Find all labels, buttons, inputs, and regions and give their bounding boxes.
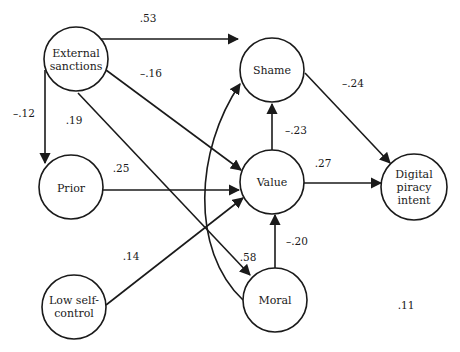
label-prior: Prior (39, 182, 103, 195)
coef-external-prior: –.12 (13, 107, 35, 119)
coef-shame-intent: –.24 (342, 77, 364, 89)
coef-prior-value: .25 (113, 162, 130, 174)
coef-external-value: –.16 (140, 67, 162, 79)
edge-external-moral (78, 93, 250, 275)
label-low-self-control: Low self- control (42, 294, 106, 320)
label-line: Low self- (42, 294, 106, 307)
coef-value-intent: .27 (315, 157, 332, 169)
label-external-sanctions: External sanctions (44, 47, 108, 73)
label-line: Digital (382, 168, 446, 181)
coef-moral-value: –.20 (286, 235, 308, 247)
label-line: Prior (39, 182, 103, 195)
r-squared-value: .11 (398, 299, 415, 311)
label-line: sanctions (44, 60, 108, 73)
label-line: control (42, 307, 106, 320)
label-value: Value (240, 176, 304, 189)
label-line: piracy (382, 181, 446, 194)
label-digital-piracy-intent: Digital piracy intent (382, 168, 446, 207)
label-line: Moral (243, 294, 307, 307)
coef-external-moral: .19 (66, 114, 83, 126)
label-line: External (44, 47, 108, 60)
label-line: Value (240, 176, 304, 189)
coef-moral-curve: .58 (240, 251, 257, 263)
edge-moral-shame-curve (205, 84, 243, 300)
label-moral: Moral (243, 294, 307, 307)
label-shame: Shame (240, 64, 304, 77)
label-line: Shame (240, 64, 304, 77)
label-line: intent (382, 194, 446, 207)
coef-value-shame: –.23 (285, 124, 307, 136)
coef-external-shame: .53 (140, 12, 157, 24)
coef-lowself-value: .14 (123, 250, 140, 262)
